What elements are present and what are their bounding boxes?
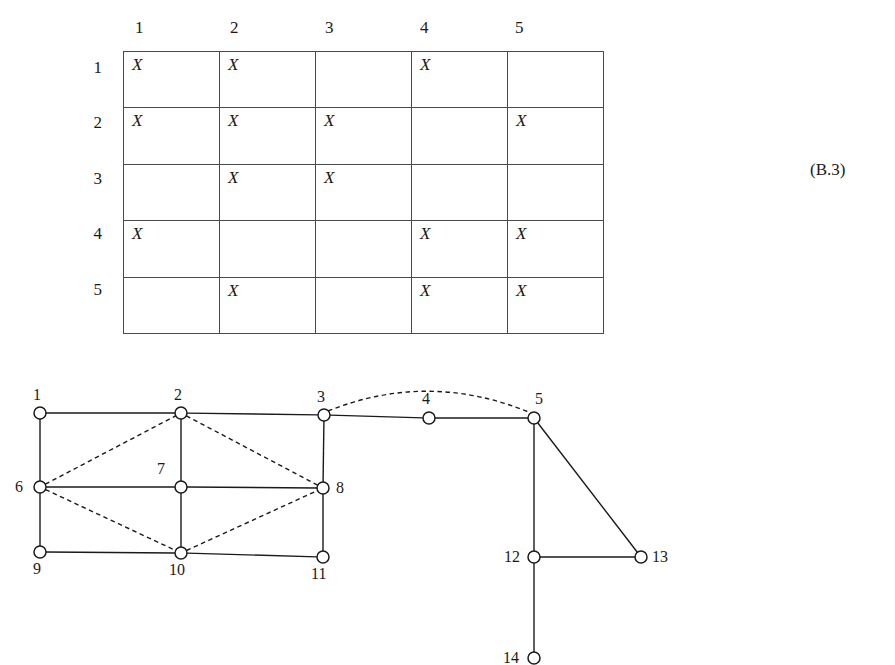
matrix-cell-2-1: X: [124, 108, 220, 164]
graph-node-1: [34, 407, 46, 419]
graph-node-12: [528, 551, 540, 563]
graph-node-label-14: 14: [503, 649, 519, 665]
matrix-row-header-4: 4: [82, 224, 102, 244]
matrix-cell-5-5: X: [508, 277, 604, 333]
graph-node-7: [175, 481, 187, 493]
graph-edge-3-8: [323, 421, 324, 482]
matrix-mark: X: [324, 111, 334, 131]
matrix-cell-2-3: X: [316, 108, 412, 164]
graph-edge-5-13: [538, 423, 638, 552]
matrix-mark: X: [420, 55, 430, 75]
graph-edge-7-8: [187, 487, 317, 488]
graph-node-10: [175, 547, 187, 559]
matrix-row: XXX: [124, 277, 604, 333]
matrix-mark: X: [132, 224, 142, 244]
matrix-row: XXX: [124, 221, 604, 277]
graph-edge-2-8: [186, 416, 317, 485]
matrix-grid: XXXXXXXXXXXXXXX: [123, 51, 604, 334]
matrix-cell-1-4: X: [412, 52, 508, 108]
graph-node-label-9: 9: [33, 560, 41, 578]
figure-root: 12345 12345 XXXXXXXXXXXXXXX (B.3) 123456…: [0, 0, 895, 665]
graph-diagram: 1234567891011121314: [0, 370, 895, 665]
matrix-mark: X: [420, 281, 430, 301]
matrix-mark: X: [516, 281, 526, 301]
graph-node-label-1: 1: [33, 386, 41, 404]
graph-node-label-10: 10: [169, 561, 185, 579]
matrix-row-header-1: 1: [82, 58, 102, 78]
graph-node-label-6: 6: [15, 478, 23, 496]
matrix-mark: X: [516, 224, 526, 244]
matrix-mark: X: [324, 168, 334, 188]
matrix-cell-4-5: X: [508, 221, 604, 277]
matrix-mark: X: [228, 55, 238, 75]
graph-node-label-7: 7: [157, 460, 165, 478]
graph-node-4: [423, 412, 435, 424]
matrix-cell-3-3: X: [316, 164, 412, 220]
incidence-matrix: 12345 12345 XXXXXXXXXXXXXXX: [0, 0, 640, 345]
matrix-mark: X: [132, 55, 142, 75]
matrix-row-header-3: 3: [82, 169, 102, 189]
matrix-cell-4-1: X: [124, 221, 220, 277]
graph-node-9: [34, 546, 46, 558]
matrix-column-header-4: 4: [420, 18, 429, 38]
matrix-column-header-3: 3: [325, 18, 334, 38]
graph-canvas: [0, 370, 895, 665]
matrix-column-header-5: 5: [515, 18, 524, 38]
graph-node-2: [175, 407, 187, 419]
graph-node-8: [317, 482, 329, 494]
graph-node-label-13: 13: [652, 548, 668, 566]
matrix-mark: X: [516, 111, 526, 131]
matrix-row: XXX: [124, 52, 604, 108]
matrix-mark: X: [132, 111, 142, 131]
matrix-row: XX: [124, 164, 604, 220]
matrix-cell-4-4: X: [412, 221, 508, 277]
matrix-cell-1-3: [316, 52, 412, 108]
graph-edge-3-4: [330, 415, 423, 418]
graph-node-label-8: 8: [336, 479, 344, 497]
matrix-cell-5-4: X: [412, 277, 508, 333]
graph-node-label-3: 3: [317, 388, 325, 406]
matrix-mark: X: [228, 111, 238, 131]
graph-node-label-5: 5: [535, 390, 543, 408]
matrix-column-header-1: 1: [135, 18, 144, 38]
matrix-mark: X: [228, 168, 238, 188]
graph-node-3: [318, 409, 330, 421]
matrix-row-header-5: 5: [82, 280, 102, 300]
graph-node-13: [635, 551, 647, 563]
matrix-cell-3-5: [508, 164, 604, 220]
matrix-cell-3-1: [124, 164, 220, 220]
graph-node-label-11: 11: [311, 565, 326, 583]
graph-node-14: [528, 652, 540, 664]
matrix-cell-5-2: X: [220, 277, 316, 333]
graph-edge-6-10: [45, 490, 175, 551]
graph-node-label-4: 4: [422, 390, 430, 408]
graph-edge-10-11: [187, 553, 317, 557]
matrix-cell-1-2: X: [220, 52, 316, 108]
matrix-mark: X: [420, 224, 430, 244]
graph-node-label-2: 2: [174, 386, 182, 404]
matrix-column-header-2: 2: [230, 18, 239, 38]
matrix-row-header-2: 2: [82, 113, 102, 133]
matrix-mark: X: [228, 281, 238, 301]
matrix-cell-2-5: X: [508, 108, 604, 164]
graph-node-6: [34, 481, 46, 493]
matrix-cell-1-1: X: [124, 52, 220, 108]
graph-edge-10-8: [186, 490, 317, 550]
graph-node-11: [317, 551, 329, 563]
matrix-cell-2-2: X: [220, 108, 316, 164]
graph-edge-9-10: [46, 552, 175, 553]
matrix-cell-5-3: [316, 277, 412, 333]
matrix-cell-5-1: [124, 277, 220, 333]
matrix-cell-3-2: X: [220, 164, 316, 220]
graph-node-5: [528, 412, 540, 424]
matrix-cell-3-4: [412, 164, 508, 220]
graph-edge-2-3: [187, 413, 318, 415]
matrix-cell-4-2: [220, 221, 316, 277]
matrix-cell-2-4: [412, 108, 508, 164]
graph-node-label-12: 12: [504, 548, 520, 566]
equation-number: (B.3): [810, 160, 845, 180]
matrix-row: XXXX: [124, 108, 604, 164]
graph-edges-solid: [40, 413, 637, 652]
matrix-cell-4-3: [316, 221, 412, 277]
matrix-cell-1-5: [508, 52, 604, 108]
